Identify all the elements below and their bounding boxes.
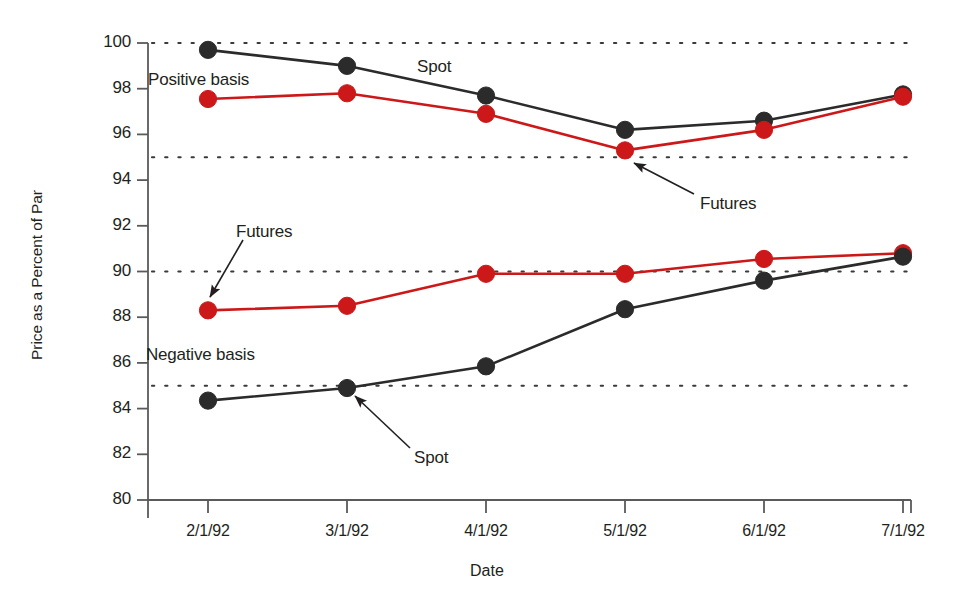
y-tick-label-100: 100: [85, 32, 131, 52]
data-point: [338, 297, 355, 314]
annotation-arrow-spot-lower: [355, 396, 410, 448]
data-point: [477, 87, 494, 104]
chart-plot-area: [0, 0, 971, 604]
data-point: [616, 265, 633, 282]
data-point: [199, 302, 216, 319]
annotation-label-negative-basis: Negative basis: [146, 345, 255, 365]
annotation-arrow-futures-lower: [210, 240, 243, 297]
y-tick-label-82: 82: [85, 443, 131, 463]
annotation-label-spot-lower: Spot: [414, 448, 448, 468]
series-line-1: [208, 93, 903, 150]
data-point: [338, 57, 355, 74]
y-tick-label-96: 96: [85, 123, 131, 143]
data-point: [755, 272, 772, 289]
series-line-3: [208, 257, 903, 401]
gridlines: [152, 43, 911, 386]
data-point: [338, 85, 355, 102]
x-tick-label-5/1/92: 5/1/92: [580, 522, 670, 540]
data-point: [477, 105, 494, 122]
y-tick-label-88: 88: [85, 306, 131, 326]
x-tick-label-4/1/92: 4/1/92: [441, 522, 531, 540]
y-tick-label-84: 84: [85, 398, 131, 418]
y-tick-label-94: 94: [85, 169, 131, 189]
annotation-label-futures-upper: Futures: [700, 194, 756, 214]
data-point: [199, 90, 216, 107]
data-point: [199, 392, 216, 409]
annotation-label-spot-upper: Spot: [417, 57, 451, 77]
y-tick-label-86: 86: [85, 352, 131, 372]
y-tick-label-98: 98: [85, 78, 131, 98]
data-point: [199, 41, 216, 58]
data-point: [894, 248, 911, 265]
chart-figure: 80828486889092949698100 2/1/923/1/924/1/…: [0, 0, 971, 604]
series-markers: [199, 41, 911, 409]
x-axis-title: Date: [470, 562, 504, 580]
series-line-2: [208, 253, 903, 310]
series-lines: [208, 50, 903, 401]
data-point: [477, 265, 494, 282]
data-point: [894, 88, 911, 105]
data-point: [616, 142, 633, 159]
annotation-label-positive-basis: Positive basis: [148, 70, 249, 90]
x-tick-label-6/1/92: 6/1/92: [719, 522, 809, 540]
data-point: [755, 250, 772, 267]
y-tick-label-90: 90: [85, 261, 131, 281]
data-point: [338, 379, 355, 396]
y-tick-label-92: 92: [85, 215, 131, 235]
annotation-arrow-futures-upper: [634, 163, 694, 194]
x-tick-label-3/1/92: 3/1/92: [302, 522, 392, 540]
data-point: [477, 358, 494, 375]
x-tick-label-7/1/92: 7/1/92: [858, 522, 948, 540]
series-line-0: [208, 50, 903, 130]
axis-ticks: [137, 43, 911, 513]
data-point: [616, 121, 633, 138]
data-point: [616, 301, 633, 318]
data-point: [755, 121, 772, 138]
y-axis-title: Price as a Percent of Par: [28, 150, 46, 400]
x-tick-label-2/1/92: 2/1/92: [163, 522, 253, 540]
annotation-label-futures-lower: Futures: [236, 222, 292, 242]
y-tick-label-80: 80: [85, 489, 131, 509]
